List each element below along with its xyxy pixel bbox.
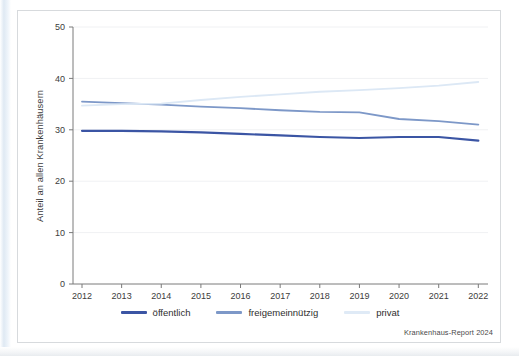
y-axis-tick-label: 50 (55, 22, 65, 32)
x-axis-tick-label: 2017 (270, 291, 290, 301)
series-line-privat (82, 82, 478, 106)
page-edge-artifact-left (0, 0, 11, 356)
x-axis-tick-label: 2014 (151, 291, 171, 301)
page-edge-artifact-bottom (0, 347, 519, 356)
x-axis-ticks-group: 2012201320142015201620172018201920202021… (72, 284, 488, 301)
chart-plot-area: Anteil an allen Krankenhäusern 010203040… (18, 11, 502, 344)
x-axis-tick-label: 2020 (389, 291, 409, 301)
legend-swatch-icon (344, 311, 370, 314)
chart-legend: öffentlichfreigemeinnützigprivat (18, 307, 502, 318)
x-axis-tick-label: 2016 (231, 291, 251, 301)
legend-item-label: öffentlich (153, 307, 191, 318)
x-axis-tick-label: 2019 (349, 291, 369, 301)
x-axis-tick-label: 2021 (429, 291, 449, 301)
source-note: Krankenhaus-Report 2024 (404, 328, 493, 337)
y-axis-tick-label: 0 (60, 279, 65, 289)
x-axis-tick-label: 2012 (72, 291, 92, 301)
y-axis-tick-label: 40 (55, 74, 65, 84)
y-axis-tick-label: 20 (55, 176, 65, 186)
legend-swatch-icon (121, 311, 147, 314)
x-axis-tick-label: 2022 (468, 291, 488, 301)
series-line-freigemeinnützig (82, 102, 478, 125)
x-axis-tick-label: 2015 (191, 291, 211, 301)
legend-item-freigemeinnützig[interactable]: freigemeinnützig (216, 307, 318, 318)
figure-frame: Anteil an allen Krankenhäusern 010203040… (17, 10, 501, 343)
y-axis-ticks-group: 01020304050 (55, 22, 73, 289)
legend-swatch-icon (216, 311, 242, 314)
legend-item-label: freigemeinnützig (248, 307, 318, 318)
y-axis-tick-label: 10 (55, 228, 65, 238)
y-axis-tick-label: 30 (55, 125, 65, 135)
gridlines-group (73, 27, 488, 233)
data-series-group (82, 82, 478, 141)
x-axis-tick-label: 2013 (112, 291, 132, 301)
legend-item-privat[interactable]: privat (344, 307, 399, 318)
x-axis-tick-label: 2018 (310, 291, 330, 301)
legend-item-label: privat (376, 307, 399, 318)
series-line-öffentlich (82, 131, 478, 141)
legend-item-öffentlich[interactable]: öffentlich (121, 307, 191, 318)
line-chart: 01020304050 2012201320142015201620172018… (18, 11, 502, 344)
